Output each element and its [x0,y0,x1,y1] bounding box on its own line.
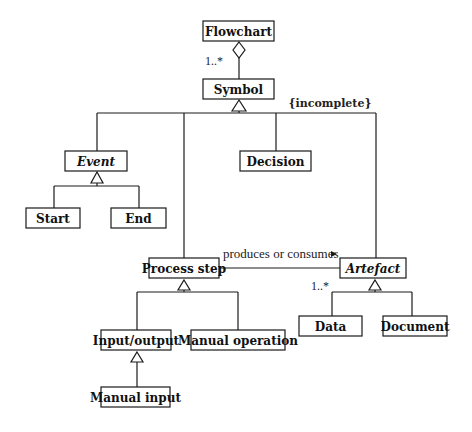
class-end[interactable]: End [111,208,166,228]
symbol-generalization: {incomplete} [97,97,376,258]
incomplete-constraint: {incomplete} [289,97,372,110]
class-artefact[interactable]: Artefact [340,258,406,278]
class-label: Start [36,212,70,226]
class-decision[interactable]: Decision [240,151,311,171]
class-label: End [125,212,152,226]
class-process-step[interactable]: Process step [142,258,226,278]
io-generalization [131,352,143,387]
association-label: produces or consumes [223,246,339,261]
generalization-triangle-icon [91,172,103,183]
class-label: Decision [247,155,305,169]
aggregation-flowchart-symbol: 1..* [205,42,245,79]
generalization-triangle-icon [232,100,246,111]
class-input-output[interactable]: Input/output [93,330,180,350]
class-label: Event [76,155,115,169]
class-label: Artefact [345,262,401,276]
class-label: Manual operation [178,334,298,348]
class-manual-input[interactable]: Manual input [90,387,181,407]
class-label: Input/output [93,334,180,348]
generalization-triangle-icon [131,352,143,362]
class-label: Flowchart [205,25,273,39]
class-symbol[interactable]: Symbol [203,79,274,99]
generalization-triangle-icon [369,280,381,290]
class-manual-operation[interactable]: Manual operation [178,330,298,350]
class-event[interactable]: Event [65,151,127,171]
aggregation-diamond-icon [233,42,245,58]
class-label: Symbol [214,83,264,97]
artefact-generalization [332,280,412,316]
class-label: Document [380,320,449,334]
class-flowchart[interactable]: Flowchart [203,21,274,41]
uml-class-diagram: 1..* {incomplete} produces or consumes 1… [0,0,472,432]
aggregation-multiplicity: 1..* [205,54,223,68]
generalization-triangle-icon [178,280,190,290]
class-label: Manual input [90,391,181,405]
association-produces-or-consumes: produces or consumes 1..* [219,246,340,293]
class-start[interactable]: Start [26,208,80,228]
class-label: Process step [142,262,226,276]
association-multiplicity: 1..* [311,279,329,293]
class-label: Data [315,320,347,334]
class-document[interactable]: Document [380,316,449,336]
process-generalization [137,280,238,330]
class-data[interactable]: Data [299,316,362,336]
event-generalization [54,172,139,208]
